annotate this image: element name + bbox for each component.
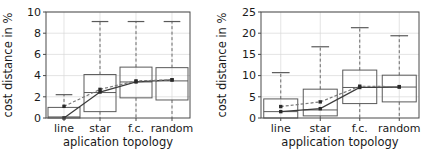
xtick-label-f.c.: f.c. xyxy=(352,122,368,135)
chart-panel-left: 0246810linestarf.c.randomaplication topo… xyxy=(0,0,213,153)
ytick-label-0: 0 xyxy=(34,112,41,125)
ytick-label-25: 25 xyxy=(242,6,256,19)
ytick-label-4: 4 xyxy=(34,69,41,82)
y-axis-title: cost distance in % xyxy=(1,12,15,117)
chart-panel-right: 0510152025linestarf.c.randomapplication … xyxy=(213,0,426,153)
ytick-label-5: 5 xyxy=(249,91,256,104)
series-marker-mean-dashed-star xyxy=(98,88,101,91)
boxplot-svg-right: 0510152025linestarf.c.randomapplication … xyxy=(213,0,426,153)
series-marker-mean-dashed-random xyxy=(398,85,401,88)
boxplot-svg-left: 0246810linestarf.c.randomaplication topo… xyxy=(0,0,213,153)
x-axis-title: aplication topology xyxy=(63,135,173,149)
series-line-mean-solid xyxy=(281,87,400,112)
series-marker-mean-solid-star xyxy=(319,107,322,110)
ytick-label-2: 2 xyxy=(34,91,41,104)
x-axis-title: application topology xyxy=(281,135,399,149)
ytick-label-10: 10 xyxy=(27,6,41,19)
xtick-label-star: star xyxy=(310,122,332,135)
series-marker-mean-dashed-line xyxy=(62,105,65,108)
ytick-label-15: 15 xyxy=(242,48,256,61)
series-marker-mean-dashed-f.c. xyxy=(134,79,137,82)
plot-frame xyxy=(46,12,190,118)
series-marker-mean-dashed-star xyxy=(319,100,322,103)
y-axis-title: cost distance in % xyxy=(215,12,229,117)
series-marker-mean-solid-line xyxy=(279,110,282,113)
xtick-label-star: star xyxy=(89,122,111,135)
ytick-label-0: 0 xyxy=(249,112,256,125)
series-marker-mean-dashed-line xyxy=(279,105,282,108)
ytick-label-10: 10 xyxy=(242,69,256,82)
xtick-label-line: line xyxy=(54,122,74,135)
xtick-label-random: random xyxy=(151,122,194,135)
series-marker-mean-dashed-random xyxy=(170,78,173,81)
ytick-label-6: 6 xyxy=(34,48,41,61)
xtick-label-f.c.: f.c. xyxy=(128,122,144,135)
figure-two-boxplot-panels: 0246810linestarf.c.randomaplication topo… xyxy=(0,0,426,153)
series-marker-mean-dashed-f.c. xyxy=(358,85,361,88)
ytick-label-20: 20 xyxy=(242,27,256,40)
ytick-label-8: 8 xyxy=(34,27,41,40)
xtick-label-random: random xyxy=(378,122,421,135)
xtick-label-line: line xyxy=(271,122,291,135)
series-line-mean-dashed xyxy=(281,86,400,106)
